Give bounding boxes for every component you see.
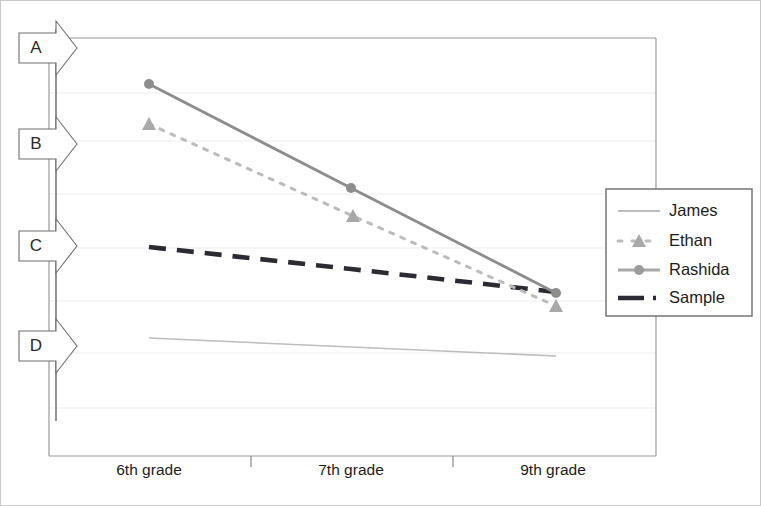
x-axis-labels: 6th grade 7th grade 9th grade	[116, 461, 586, 478]
line-chart: A B C D	[1, 1, 761, 506]
y-axis-callout-label: B	[30, 134, 41, 153]
series-marker-rashida	[144, 79, 154, 89]
y-axis-callout-label: D	[30, 336, 42, 355]
legend-label: Rashida	[669, 260, 730, 278]
legend-label: Sample	[669, 288, 725, 306]
y-axis-callout-label: C	[30, 236, 42, 255]
y-axis-callout-label: A	[30, 38, 42, 57]
legend-label: James	[669, 201, 718, 219]
chart-figure: A B C D	[0, 0, 761, 506]
x-tick-label: 6th grade	[116, 461, 182, 478]
x-tick-label: 7th grade	[318, 461, 384, 478]
x-tick-label: 9th grade	[520, 461, 586, 478]
legend-marker-rashida-icon	[634, 265, 644, 275]
series-marker-rashida	[551, 288, 561, 298]
chart-legend: James Ethan Rashida Sample	[606, 189, 752, 316]
series-marker-rashida	[346, 183, 356, 193]
plot-area-background	[49, 38, 656, 456]
legend-label: Ethan	[669, 231, 712, 249]
